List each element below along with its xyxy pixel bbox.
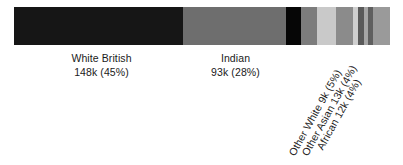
bar-segment-white-british[interactable] <box>14 7 183 45</box>
bar-segment-indian[interactable] <box>183 7 286 45</box>
label-white-british-name: White British <box>45 51 158 65</box>
label-white-british-value: 148k (45%) <box>45 65 158 79</box>
bar-segment-african[interactable] <box>317 7 336 45</box>
label-white-british: White British 148k (45%) <box>45 51 158 79</box>
bar-segment-other-asian[interactable] <box>301 7 317 45</box>
label-indian-name: Indian <box>189 51 282 65</box>
label-indian: Indian 93k (28%) <box>189 51 282 79</box>
stacked-bar-chart-figure: White British 148k (45%) Indian 93k (28%… <box>0 0 403 165</box>
stacked-bar <box>14 7 390 45</box>
label-indian-value: 93k (28%) <box>189 65 282 79</box>
bar-segment-remainder-f[interactable] <box>373 7 390 45</box>
bar-segment-remainder-a[interactable] <box>336 7 353 45</box>
bar-segment-other-white[interactable] <box>286 7 301 45</box>
